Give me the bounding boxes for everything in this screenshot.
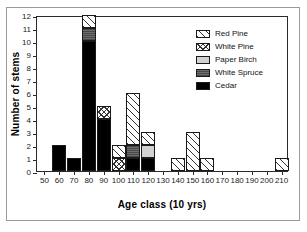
- x-tick-label-140: 140: [171, 177, 184, 185]
- x-tick-label-150: 150: [186, 177, 199, 185]
- legend-label: Red Pine: [215, 30, 248, 38]
- x-tick-210: [282, 171, 283, 175]
- bar-segment-80-white-spruce: [82, 28, 96, 41]
- bar-segment-120-cedar: [141, 158, 155, 171]
- y-tick-label-3: 3: [27, 130, 31, 138]
- x-tick-label-100: 100: [112, 177, 125, 185]
- bar-80: [82, 15, 96, 171]
- x-tick-label-190: 190: [245, 177, 258, 185]
- legend-swatch-paper-birch-icon: [196, 56, 210, 64]
- bar-segment-60-cedar: [52, 145, 66, 171]
- x-tick-80: [89, 171, 90, 175]
- x-tick-90: [104, 171, 105, 175]
- x-tick-label-130: 130: [156, 177, 169, 185]
- legend-item-paper-birch[interactable]: Paper Birch: [196, 54, 263, 65]
- bar-segment-150-red-pine: [186, 132, 200, 171]
- x-tick-label-200: 200: [260, 177, 273, 185]
- x-tick-label-60: 60: [55, 177, 64, 185]
- y-tick-0: [33, 173, 37, 174]
- bar-segment-100-white-pine: [112, 158, 126, 171]
- y-tick-label-10: 10: [22, 39, 31, 47]
- figure: Number of stems Age class (10 yrs) 01234…: [0, 0, 307, 232]
- x-tick-150: [193, 171, 194, 175]
- y-tick-label-0: 0: [27, 169, 31, 177]
- legend-item-white-pine[interactable]: White Pine: [196, 41, 263, 52]
- x-tick-190: [252, 171, 253, 175]
- bar-segment-100-red-pine: [112, 145, 126, 158]
- bar-90: [97, 106, 111, 171]
- bar-segment-110-white-spruce: [126, 145, 140, 158]
- x-tick-100: [119, 171, 120, 175]
- x-tick-label-210: 210: [275, 177, 288, 185]
- bar-segment-120-red-pine: [141, 132, 155, 145]
- bar-segment-110-cedar: [126, 158, 140, 171]
- bar-segment-90-cedar: [97, 119, 111, 171]
- bar-segment-80-cedar: [82, 41, 96, 171]
- bar-160: [200, 158, 214, 171]
- legend-swatch-white-pine-icon: [196, 43, 210, 51]
- bar-segment-120-paper-birch: [141, 145, 155, 158]
- x-tick-label-170: 170: [216, 177, 229, 185]
- x-tick-label-160: 160: [201, 177, 214, 185]
- legend: Red PineWhite PinePaper BirchWhite Spruc…: [196, 28, 263, 91]
- y-tick-label-6: 6: [27, 91, 31, 99]
- x-tick-110: [133, 171, 134, 175]
- legend-swatch-cedar-icon: [196, 82, 210, 90]
- y-tick-label-2: 2: [27, 143, 31, 151]
- y-tick-label-5: 5: [27, 104, 31, 112]
- x-tick-label-110: 110: [127, 177, 140, 185]
- bar-segment-90-white-pine: [97, 106, 111, 119]
- x-tick-180: [237, 171, 238, 175]
- x-tick-120: [148, 171, 149, 175]
- bar-150: [186, 132, 200, 171]
- bar-120: [141, 132, 155, 171]
- y-tick-label-9: 9: [27, 52, 31, 60]
- x-tick-160: [207, 171, 208, 175]
- y-tick-label-11: 11: [23, 26, 31, 34]
- x-tick-label-90: 90: [99, 177, 108, 185]
- x-tick-label-120: 120: [141, 177, 154, 185]
- x-tick-50: [44, 171, 45, 175]
- legend-swatch-red-pine-icon: [196, 30, 210, 38]
- y-tick-label-8: 8: [27, 65, 31, 73]
- bar-segment-70-cedar: [67, 158, 81, 171]
- legend-item-white-spruce[interactable]: White Spruce: [196, 67, 263, 78]
- legend-label: Cedar: [215, 82, 237, 90]
- legend-swatch-white-spruce-icon: [196, 69, 210, 77]
- x-tick-label-180: 180: [230, 177, 243, 185]
- x-tick-200: [267, 171, 268, 175]
- bar-segment-140-red-pine: [171, 158, 185, 171]
- x-tick-70: [74, 171, 75, 175]
- x-tick-label-50: 50: [40, 177, 49, 185]
- y-tick-label-1: 1: [27, 156, 31, 164]
- bar-140: [171, 158, 185, 171]
- bar-210: [275, 158, 289, 171]
- legend-item-cedar[interactable]: Cedar: [196, 80, 263, 91]
- x-tick-170: [222, 171, 223, 175]
- bar-segment-110-red-pine: [126, 93, 140, 145]
- y-tick-label-4: 4: [27, 117, 31, 125]
- y-axis-title: Number of stems: [9, 16, 22, 172]
- legend-label: White Pine: [215, 43, 254, 51]
- bar-segment-210-red-pine: [275, 158, 289, 171]
- bar-60: [52, 145, 66, 171]
- x-tick-130: [163, 171, 164, 175]
- bar-segment-160-red-pine: [200, 158, 214, 171]
- x-axis-title: Age class (10 yrs): [36, 199, 288, 210]
- x-tick-label-80: 80: [84, 177, 93, 185]
- legend-label: Paper Birch: [215, 56, 257, 64]
- y-tick-label-12: 12: [22, 13, 31, 21]
- bar-110: [126, 93, 140, 171]
- y-tick-label-7: 7: [27, 78, 31, 86]
- x-tick-140: [178, 171, 179, 175]
- bar-segment-80-red-pine: [82, 15, 96, 28]
- bar-100: [112, 145, 126, 171]
- x-tick-label-70: 70: [70, 177, 79, 185]
- legend-label: White Spruce: [215, 69, 263, 77]
- legend-item-red-pine[interactable]: Red Pine: [196, 28, 263, 39]
- bar-70: [67, 158, 81, 171]
- x-tick-60: [59, 171, 60, 175]
